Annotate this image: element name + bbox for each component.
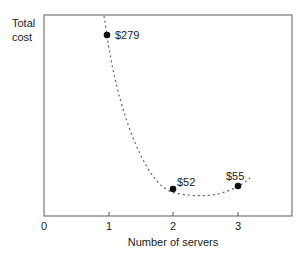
x-tick-label-1: 1	[106, 220, 112, 232]
chart: $279 $52 $55 Total cost 0 1 2 3 Number o…	[0, 0, 306, 256]
y-axis-label-line1: Total	[12, 17, 35, 29]
x-axis-label: Number of servers	[128, 236, 219, 248]
plot-frame	[44, 15, 292, 216]
x-tick-label-0: 0	[41, 220, 47, 232]
data-point-1	[104, 32, 111, 39]
cost-curve	[104, 16, 250, 196]
data-point-3	[235, 183, 242, 190]
data-point-2	[170, 186, 177, 193]
x-tick-label-3: 3	[235, 220, 241, 232]
point-label-1: $279	[115, 29, 139, 41]
point-label-3: $55	[226, 170, 244, 182]
x-tick-label-2: 2	[170, 220, 176, 232]
point-label-2: $52	[177, 176, 195, 188]
y-axis-label-line2: cost	[12, 31, 32, 43]
